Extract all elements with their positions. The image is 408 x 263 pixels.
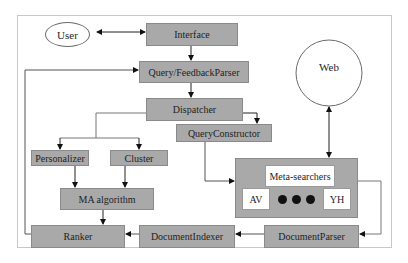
document-parser-node: DocumentParser [264,225,359,248]
document-indexer-node: DocumentIndexer [139,225,235,248]
ellipsis-dot [278,195,287,204]
ma-algorithm-node: MA algorithm [60,188,154,210]
web-node: Web [296,55,362,79]
personalizer-node: Personalizer [31,150,89,166]
yh-searcher: YH [323,188,351,210]
ellipsis-dot [292,195,301,204]
meta-searchers-label: Meta-searchers [265,165,335,187]
cluster-node: Cluster [110,150,168,166]
av-searcher: AV [242,188,270,210]
user-node: User [45,22,90,47]
ranker-node: Ranker [31,225,125,248]
query-constructor-node: QueryConstructor [176,124,272,142]
interface-node: Interface [146,23,238,46]
query-feedback-parser-node: Query/FeedbackParser [139,61,249,83]
ellipsis-dot [306,195,315,204]
dispatcher-node: Dispatcher [146,98,243,121]
